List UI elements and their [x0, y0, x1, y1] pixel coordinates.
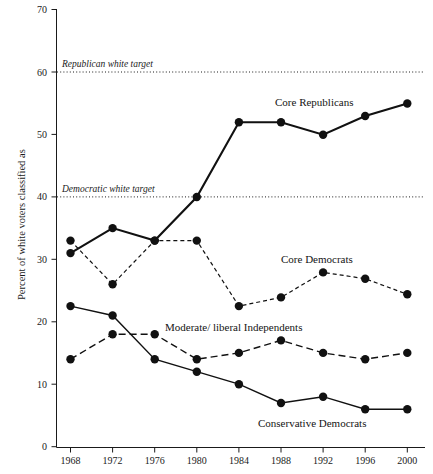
data-point [108, 311, 116, 319]
y-axis-title: Percent of white voters classified as [16, 149, 27, 300]
y-tick-label: 10 [37, 379, 47, 390]
y-tick-label: 20 [37, 316, 47, 327]
data-point [403, 99, 411, 107]
data-point [361, 355, 369, 363]
x-tick-labels: 1968 1972 1976 1980 1984 1988 1992 1996 … [61, 455, 418, 466]
y-tick-label: 70 [37, 4, 47, 15]
x-tick-label: 1976 [145, 455, 165, 466]
reference-lines: Republican white target Democratic white… [57, 59, 425, 197]
data-point [66, 236, 74, 244]
data-point [403, 349, 411, 357]
data-point [403, 405, 411, 413]
y-tick-marks [52, 10, 57, 447]
chart-figure: Percent of white voters classified as 70… [0, 0, 433, 474]
x-tick-label: 1984 [229, 455, 249, 466]
x-tick-label: 1996 [355, 455, 375, 466]
y-tick-label: 0 [42, 441, 47, 452]
data-point [319, 131, 327, 139]
x-tick-label: 1972 [103, 455, 123, 466]
data-point [277, 399, 285, 407]
data-point [66, 355, 74, 363]
y-tick-label: 30 [37, 254, 47, 265]
republican-white-target-label: Republican white target [61, 59, 153, 69]
series-core-republicans [66, 99, 411, 257]
data-point [235, 349, 243, 357]
x-tick-label: 2000 [397, 455, 417, 466]
data-point [151, 330, 159, 338]
line-chart: Percent of white voters classified as 70… [0, 0, 433, 474]
data-point [361, 405, 369, 413]
democratic-white-target-label: Democratic white target [61, 184, 155, 194]
y-tick-label: 50 [37, 129, 47, 140]
data-point [151, 355, 159, 363]
series-conservative-democrats [66, 302, 411, 414]
data-point [108, 224, 116, 232]
y-tick-label: 40 [37, 191, 47, 202]
data-point [151, 236, 159, 244]
x-tick-label: 1980 [187, 455, 207, 466]
data-point [277, 118, 285, 126]
data-point [193, 368, 201, 376]
data-point [66, 302, 74, 310]
data-point [319, 393, 327, 401]
data-point [108, 330, 116, 338]
series-moderate-liberal-independents [66, 330, 411, 363]
x-tick-label: 1988 [271, 455, 291, 466]
annotation-conservative-democrats: Conservative Democrats [258, 417, 366, 429]
data-point [319, 349, 327, 357]
x-tick-label: 1992 [313, 455, 333, 466]
data-point [319, 268, 327, 276]
data-point [235, 118, 243, 126]
data-point [193, 236, 201, 244]
data-point [277, 336, 285, 344]
x-tick-marks [71, 448, 408, 453]
data-point [361, 275, 369, 283]
data-point [66, 249, 74, 257]
annotation-core-democrats: Core Democrats [281, 253, 353, 265]
annotation-core-republicans: Core Republicans [275, 96, 354, 108]
core-democrats-line [71, 241, 408, 307]
data-point [235, 380, 243, 388]
y-tick-labels: 70 60 50 40 30 20 10 0 [37, 4, 47, 452]
annotation-moderate-liberal-independents: Moderate/ liberal Independents [165, 321, 302, 333]
series-core-democrats [66, 236, 411, 310]
data-point [403, 290, 411, 298]
data-point [277, 293, 285, 301]
series-annotations: Core Republicans Core Democrats Moderate… [165, 96, 366, 429]
data-point [193, 355, 201, 363]
data-point [108, 280, 116, 288]
x-tick-label: 1968 [61, 455, 81, 466]
data-point [193, 193, 201, 201]
y-tick-label: 60 [37, 67, 47, 78]
data-point [235, 302, 243, 310]
data-point [361, 112, 369, 120]
